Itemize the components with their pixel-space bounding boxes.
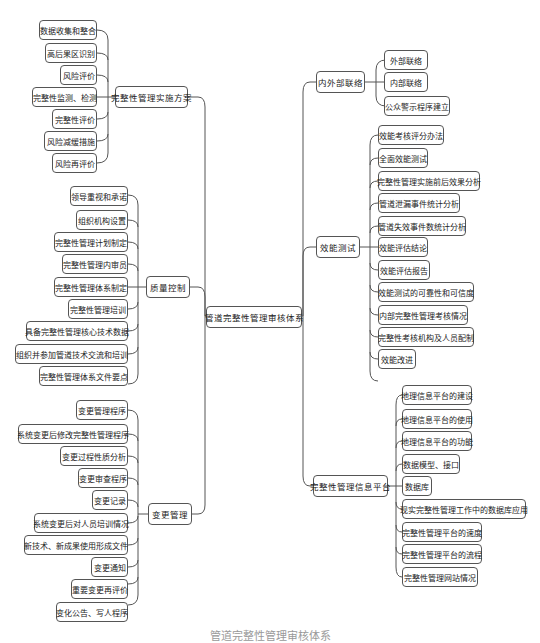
- branch-implementation-plan[interactable]: 完整性管理实施方案: [115, 86, 188, 108]
- leaf-node[interactable]: 高后果区识别: [45, 43, 97, 63]
- figure-caption: 管道完整性管理审核体系: [0, 627, 540, 643]
- leaf-node[interactable]: 完整性管理平台的流程: [402, 544, 482, 564]
- leaf-node[interactable]: 组织并参加管道技术交流和培训: [15, 344, 128, 364]
- leaf-node[interactable]: 新技术、新成果使用形成文件: [24, 535, 128, 555]
- leaf-node[interactable]: 完整性管理内审员: [62, 254, 128, 274]
- leaf-node[interactable]: 内部完整性管理考核情况: [378, 305, 468, 325]
- leaf-node[interactable]: 效能评估结论: [378, 237, 428, 257]
- leaf-node[interactable]: 地理信息平台的使用: [402, 409, 472, 429]
- leaf-node[interactable]: 变化公告、写人程序: [56, 602, 128, 622]
- leaf-node[interactable]: 效能考核评分办法: [378, 125, 444, 145]
- leaf-node[interactable]: 变更记录: [92, 490, 128, 510]
- leaf-node[interactable]: 完整性监测、检测: [32, 87, 97, 107]
- leaf-node[interactable]: 数据库: [402, 476, 432, 496]
- leaf-node[interactable]: 完整性管理计划制定: [54, 232, 128, 252]
- leaf-node[interactable]: 公众警示程序建立: [384, 96, 450, 116]
- leaf-node[interactable]: 数据收集和整合: [39, 20, 97, 40]
- leaf-node[interactable]: 系统变更后修改完整性管理程序: [18, 424, 128, 444]
- leaf-node[interactable]: 外部联络: [384, 50, 428, 70]
- leaf-node[interactable]: 全面效能测试: [378, 148, 428, 168]
- leaf-node[interactable]: 变更管理程序: [76, 400, 128, 420]
- leaf-node[interactable]: 完整性管理网站情况: [402, 567, 478, 587]
- branch-performance-testing[interactable]: 效能测试: [316, 236, 360, 258]
- center-node[interactable]: 管道完整性管理审核体系: [206, 306, 302, 328]
- branch-change-management[interactable]: 变更管理: [148, 503, 192, 525]
- leaf-node[interactable]: 地理信息平台的功能: [402, 431, 472, 451]
- leaf-node[interactable]: 具备完整性管理核心技术数据: [26, 321, 128, 341]
- leaf-node[interactable]: 完整性管理体系制定: [54, 277, 128, 297]
- leaf-node[interactable]: 领导重视和承诺: [70, 186, 128, 206]
- leaf-node[interactable]: 现实完整性管理工作中的数据库应用: [402, 499, 526, 519]
- leaf-node[interactable]: 完整性管理平台的速度: [402, 522, 482, 542]
- branch-internal-external-liaison[interactable]: 内外部联络: [316, 71, 365, 93]
- leaf-node[interactable]: 效能测试的可靠性和可信度: [378, 282, 474, 302]
- leaf-node[interactable]: 管道失效事件数统计分析: [378, 216, 466, 236]
- leaf-node[interactable]: 完整性管理体系文件要点: [39, 366, 128, 386]
- branch-info-platform[interactable]: 完整性管理信息平台: [313, 475, 388, 497]
- leaf-node[interactable]: 变更审查程序: [78, 468, 128, 488]
- leaf-node[interactable]: 组织机构设置: [76, 210, 128, 230]
- leaf-node[interactable]: 风险评价: [60, 65, 97, 85]
- leaf-node[interactable]: 内部联络: [384, 72, 428, 92]
- leaf-node[interactable]: 变更通知: [91, 557, 128, 577]
- leaf-node[interactable]: 风险减缓措施: [44, 131, 97, 151]
- leaf-node[interactable]: 变更过程性质分析: [60, 446, 128, 466]
- leaf-node[interactable]: 数据模型、接口: [402, 454, 460, 474]
- leaf-node[interactable]: 完整性管理培训: [68, 299, 128, 319]
- leaf-node[interactable]: 风险再评价: [52, 153, 97, 173]
- leaf-node[interactable]: 完整性考核机构及人员配制: [378, 327, 474, 347]
- leaf-node[interactable]: 效能评估报告: [378, 260, 430, 280]
- leaf-node[interactable]: 重要变更再评价: [71, 579, 128, 599]
- branch-quality-control[interactable]: 质量控制: [146, 276, 190, 298]
- leaf-node[interactable]: 效能改进: [378, 349, 416, 369]
- leaf-node[interactable]: 地理信息平台的建设: [402, 385, 472, 405]
- leaf-node[interactable]: 完整性评价: [52, 109, 97, 129]
- leaf-node[interactable]: 完整性管理实施前后效果分析: [378, 171, 480, 191]
- leaf-node[interactable]: 系统变更后对人员培训情况: [34, 513, 128, 533]
- leaf-node[interactable]: 管道泄漏事件统计分析: [378, 193, 460, 213]
